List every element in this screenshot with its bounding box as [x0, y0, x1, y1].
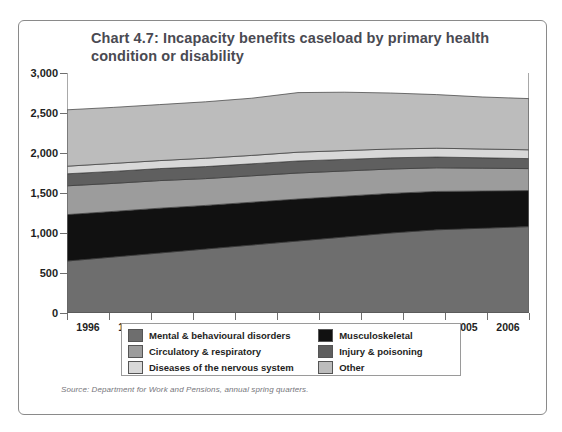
- legend-item: Injury & poisoning: [318, 345, 454, 358]
- x-tick-mark: [361, 313, 362, 320]
- legend-row: Circulatory & respiratoryInjury & poison…: [128, 344, 454, 359]
- y-tick-mark: [60, 193, 67, 194]
- x-tick-mark: [67, 313, 68, 320]
- x-tick-mark: [445, 313, 446, 320]
- x-tick-label: 1996: [76, 321, 99, 333]
- legend-row: Mental & behavioural disordersMusculoske…: [128, 328, 454, 343]
- legend-swatch-icon: [128, 345, 143, 358]
- source-note: Source: Department for Work and Pensions…: [61, 385, 309, 394]
- stacked-area-plot: [67, 73, 529, 313]
- x-tick-mark: [319, 313, 320, 320]
- legend-swatch-icon: [128, 329, 143, 342]
- chart-title: Chart 4.7: Incapacity benefits caseload …: [91, 29, 531, 65]
- y-tick-mark: [60, 233, 67, 234]
- x-tick-label: 2006: [496, 321, 519, 333]
- legend-label: Musculoskeletal: [339, 330, 412, 341]
- x-tick-mark: [109, 313, 110, 320]
- legend-item: Mental & behavioural disorders: [128, 329, 318, 342]
- legend-swatch-icon: [318, 345, 333, 358]
- legend-swatch-icon: [128, 361, 143, 374]
- legend-item: Diseases of the nervous system: [128, 361, 318, 374]
- plot-area: 05001,0001,5002,0002,5003,000: [67, 73, 529, 313]
- legend-item: Other: [318, 361, 454, 374]
- legend-row: Diseases of the nervous systemOther: [128, 360, 454, 375]
- y-tick-mark: [60, 113, 67, 114]
- legend-label: Mental & behavioural disorders: [149, 330, 290, 341]
- x-tick-mark: [235, 313, 236, 320]
- legend-label: Circulatory & respiratory: [149, 346, 261, 357]
- legend-item: Musculoskeletal: [318, 329, 454, 342]
- x-tick-mark: [277, 313, 278, 320]
- y-tick-mark: [60, 313, 67, 314]
- y-tick-mark: [60, 73, 67, 74]
- legend-label: Injury & poisoning: [339, 346, 422, 357]
- legend-label: Other: [339, 362, 364, 373]
- x-tick-mark: [529, 313, 530, 320]
- chart-figure: Chart 4.7: Incapacity benefits caseload …: [18, 20, 547, 415]
- x-tick-mark: [487, 313, 488, 320]
- x-tick-mark: [151, 313, 152, 320]
- legend-swatch-icon: [318, 329, 333, 342]
- legend-swatch-icon: [318, 361, 333, 374]
- legend-item: Circulatory & respiratory: [128, 345, 318, 358]
- x-tick-mark: [403, 313, 404, 320]
- y-tick-mark: [60, 153, 67, 154]
- legend-label: Diseases of the nervous system: [149, 362, 294, 373]
- chart-legend: Mental & behavioural disordersMusculoske…: [121, 323, 461, 376]
- y-tick-mark: [60, 273, 67, 274]
- x-tick-mark: [193, 313, 194, 320]
